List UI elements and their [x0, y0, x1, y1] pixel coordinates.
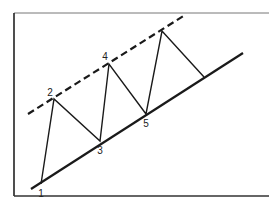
upper-channel-line: [28, 15, 185, 114]
label-point-5: 5: [143, 118, 149, 129]
channel-diagram: 1 2 3 4 5: [0, 0, 279, 208]
label-point-4: 4: [102, 51, 108, 62]
label-point-3: 3: [97, 145, 103, 156]
lower-trendline: [31, 53, 243, 189]
label-point-1: 1: [38, 188, 44, 199]
label-point-2: 2: [47, 87, 53, 98]
